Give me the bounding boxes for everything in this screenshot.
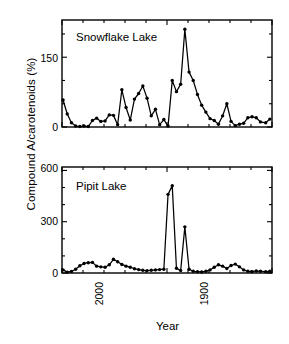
plot-frame-top	[62, 20, 272, 127]
x-tick-1900: 1900	[198, 282, 210, 305]
panel-title-bottom: Pipit Lake	[76, 180, 127, 192]
bottom-y-tick-300: 300	[26, 215, 58, 227]
x-axis-title: Year	[62, 320, 273, 332]
bottom-y-tick-0: 0	[26, 267, 58, 279]
data-series-top	[63, 29, 270, 126]
data-series-bottom	[63, 186, 270, 272]
figure-container: Compound A/carotenoids (%) Snowflake Lak…	[0, 0, 289, 344]
x-tick-2000: 2000	[93, 282, 105, 305]
bottom-y-tick-600: 600	[26, 162, 58, 174]
